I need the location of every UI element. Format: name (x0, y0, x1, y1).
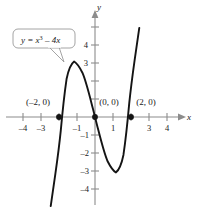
equation-suffix: – 4x (43, 35, 61, 45)
y-axis-label: y (96, 2, 101, 12)
point-2-0 (128, 114, 134, 120)
x-tick-label-3: 3 (147, 123, 151, 133)
y-tick-label-4: 4 (84, 40, 89, 50)
x-tick-label-1: 1 (111, 123, 115, 133)
graph-figure: –4 –3 –1 1 3 4 4 3 –1 –2 –3 –4 x y (–2, … (0, 0, 197, 208)
equation-callout: y = x3 – 4x (13, 29, 75, 62)
y-tick-label-3: 3 (84, 58, 88, 68)
y-tick-label--3: –3 (80, 166, 90, 176)
equation-prefix: y = x (20, 35, 40, 45)
x-tick-label--3: –3 (36, 123, 46, 133)
point-label-minus2-0: (–2, 0) (26, 97, 50, 107)
x-axis-arrow-icon (178, 114, 186, 121)
y-tick-label--1: –1 (80, 130, 90, 140)
point-0-0 (92, 114, 98, 120)
x-tick-label-4: 4 (165, 123, 170, 133)
point-label-0-0: (0, 0) (99, 97, 119, 107)
point-minus2-0 (56, 114, 62, 120)
y-tick-label--2: –2 (80, 148, 90, 158)
y-tick-label--4: –4 (80, 184, 90, 194)
plot-svg: –4 –3 –1 1 3 4 4 3 –1 –2 –3 –4 x y (–2, … (0, 0, 197, 208)
x-axis-label: x (186, 112, 191, 122)
point-label-2-0: (2, 0) (136, 97, 156, 107)
x-tick-label--4: –4 (18, 123, 28, 133)
x-tick-labels-group: –4 –3 –1 1 3 4 (18, 123, 170, 133)
callout-tail (49, 47, 64, 62)
